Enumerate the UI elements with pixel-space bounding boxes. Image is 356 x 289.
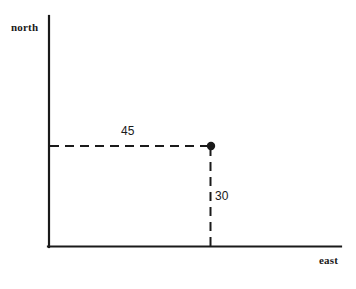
x-axis-label: east — [319, 254, 338, 266]
vertical-measure-label: 30 — [215, 189, 228, 203]
data-point-marker — [207, 142, 215, 150]
coordinate-diagram — [0, 0, 356, 289]
y-axis-label: north — [11, 21, 38, 33]
diagram-canvas: north east 45 30 — [0, 0, 356, 289]
horizontal-measure-label: 45 — [121, 124, 134, 138]
